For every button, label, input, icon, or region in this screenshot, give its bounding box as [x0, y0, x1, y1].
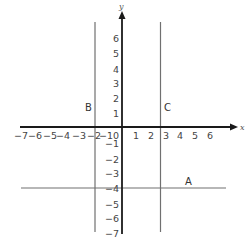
- y-tick: −6: [105, 213, 119, 224]
- y-tick: −2: [105, 154, 119, 165]
- y-axis-arrow-icon: [119, 11, 126, 19]
- y-axis-label: y: [118, 2, 124, 11]
- y-tick: −3: [105, 168, 119, 179]
- x-tick: 2: [148, 130, 154, 141]
- x-tick: −7: [14, 130, 28, 141]
- y-tick-labels-negative: −1 −2 −3 −4 −5 −6 −7: [105, 138, 119, 239]
- x-tick: 1: [133, 130, 139, 141]
- x-tick: 5: [192, 130, 198, 141]
- y-tick: 4: [113, 64, 119, 75]
- line-b-label: B: [85, 102, 92, 113]
- y-tick-labels-positive: 6 5 4 3 2 1: [113, 33, 119, 119]
- x-tick: 3: [163, 130, 169, 141]
- y-tick: 6: [113, 33, 119, 44]
- x-tick: −3: [72, 130, 86, 141]
- x-tick: −5: [43, 130, 57, 141]
- y-tick: 1: [113, 108, 119, 119]
- line-c-label: C: [164, 102, 171, 113]
- x-axis-arrow-icon: [230, 124, 238, 131]
- y-tick: 5: [113, 48, 119, 59]
- x-tick: 6: [207, 130, 213, 141]
- x-tick: −4: [56, 130, 70, 141]
- x-axis-label: x: [240, 123, 245, 132]
- y-tick: 3: [113, 78, 119, 89]
- x-tick: 4: [177, 130, 183, 141]
- line-a-label: A: [185, 176, 192, 187]
- y-tick: −1: [105, 138, 119, 149]
- coordinate-plane: x y −7 −6 −5 −4 −3 −2 −1 0 1 2 3 4 5 6 6…: [0, 0, 248, 248]
- y-tick: −4: [105, 183, 119, 194]
- y-tick: −7: [105, 228, 119, 239]
- y-tick: 2: [113, 93, 119, 104]
- y-tick: −5: [105, 199, 119, 210]
- x-tick: −6: [28, 130, 42, 141]
